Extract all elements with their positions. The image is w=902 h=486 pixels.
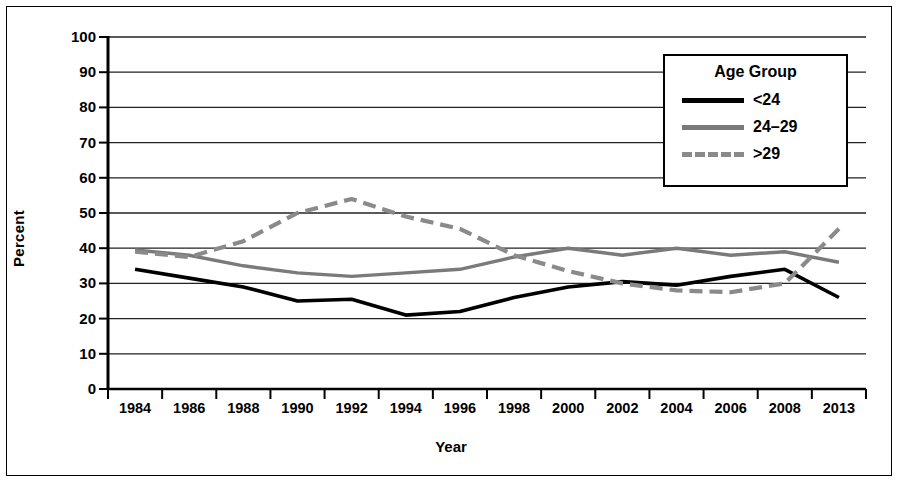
legend-swatch-1	[682, 121, 744, 133]
legend-line-sample	[682, 125, 744, 130]
chart-figure: Percent 0102030405060708090100 198419861…	[0, 0, 902, 486]
legend-entry: >29	[665, 140, 846, 167]
x-axis-title: Year	[0, 438, 902, 455]
legend: Age Group <2424–29>29	[663, 54, 848, 187]
legend-entries: <2424–29>29	[665, 86, 846, 167]
data-series-layer	[135, 199, 839, 315]
legend-swatch-2	[682, 148, 744, 160]
legend-label: >29	[753, 145, 780, 163]
legend-entry: 24–29	[665, 113, 846, 140]
series-line-1	[135, 248, 839, 276]
legend-line-sample	[682, 98, 744, 103]
legend-entry: <24	[665, 86, 846, 113]
legend-line-sample	[682, 152, 744, 157]
legend-swatch-0	[682, 94, 744, 106]
legend-label: 24–29	[753, 118, 798, 136]
legend-label: <24	[753, 91, 780, 109]
legend-title: Age Group	[665, 63, 846, 81]
